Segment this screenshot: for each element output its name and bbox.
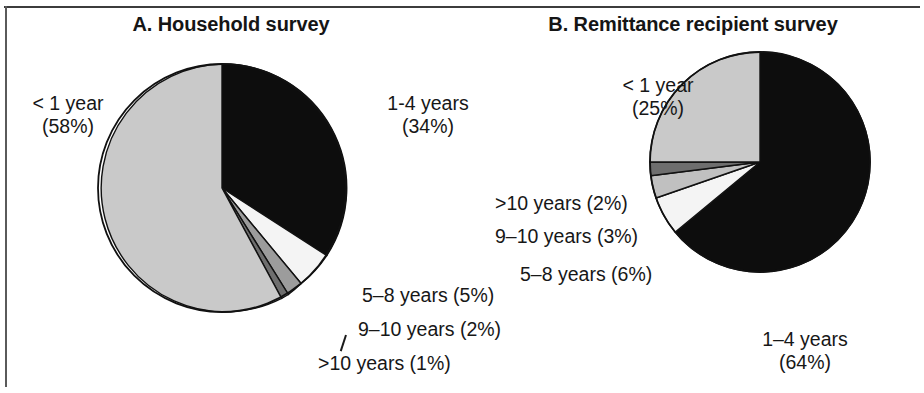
label-line-2: (64%) (740, 351, 870, 374)
label-5-8-years-b: 5–8 years (6%) (520, 263, 652, 286)
label-line-2: (58%) (6, 115, 130, 138)
panel-a-title: A. Household survey (0, 13, 462, 36)
panel-household-survey: A. Household survey < 1 year (58%) 1-4 y… (0, 0, 462, 393)
label-over-10-years-b: >10 years (2%) (495, 192, 628, 215)
label-9-10-years-b: 9–10 years (3%) (495, 225, 638, 248)
label-less-than-1-year-b: < 1 year (25%) (594, 74, 722, 120)
pie-chart-household-survey (96, 62, 348, 314)
label-line-2: (25%) (594, 97, 722, 120)
leader-line-over-10-years-a (340, 335, 347, 352)
label-line-1: 1–4 years (740, 328, 870, 351)
label-line-1: < 1 year (6, 92, 130, 115)
label-over-10-years-a: >10 years (1%) (318, 352, 451, 375)
figure-container: A. Household survey < 1 year (58%) 1-4 y… (0, 0, 924, 393)
label-line-1: < 1 year (594, 74, 722, 97)
panel-b-title: B. Remittance recipient survey (462, 13, 924, 36)
label-less-than-1-year-a: < 1 year (58%) (6, 92, 130, 138)
label-1-4-years-b: 1–4 years (64%) (740, 328, 870, 374)
